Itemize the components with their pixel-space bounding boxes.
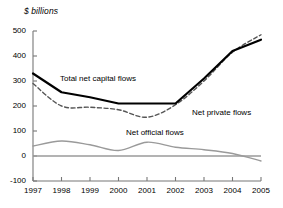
chart-plot-area xyxy=(0,0,283,208)
x-tick-label-1999: 1999 xyxy=(75,186,105,195)
annotation-net-official-flows: Net official flows xyxy=(126,128,184,137)
y-tick-label-500: 500 xyxy=(0,26,26,35)
x-tick-label-2001: 2001 xyxy=(132,186,162,195)
x-tick-label-1997: 1997 xyxy=(18,186,48,195)
x-tick-label-2003: 2003 xyxy=(189,186,219,195)
series-line-net-official-flows xyxy=(33,141,261,161)
capital-flows-chart: $ billions 5004003002001000-100 19971998… xyxy=(0,0,283,208)
y-tick-label-400: 400 xyxy=(0,51,26,60)
x-tick-label-1998: 1998 xyxy=(47,186,77,195)
axis-lines xyxy=(33,31,261,181)
series-line-total-net-capital-flows xyxy=(33,40,261,104)
y-tick-label-300: 300 xyxy=(0,76,26,85)
annotation-total-net-capital-flows: Total net capital flows xyxy=(60,74,136,83)
y-tick-label-neg100: -100 xyxy=(0,176,26,185)
x-tick-label-2005: 2005 xyxy=(246,186,276,195)
annotation-net-private-flows: Net private flows xyxy=(192,108,251,117)
x-tick-label-2002: 2002 xyxy=(161,186,191,195)
x-tick-label-2000: 2000 xyxy=(104,186,134,195)
x-tick-label-2004: 2004 xyxy=(218,186,248,195)
y-tick-label-100: 100 xyxy=(0,126,26,135)
y-tick-label-0: 0 xyxy=(0,151,26,160)
y-tick-label-200: 200 xyxy=(0,101,26,110)
